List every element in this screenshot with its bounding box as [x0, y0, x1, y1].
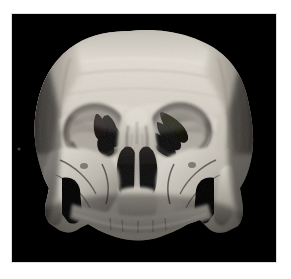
artifact-speck — [17, 147, 20, 150]
volume-render-canvas[interactable] — [12, 14, 276, 262]
page-root: anterior (frontal) face view — [0, 0, 291, 279]
skull-volume-rendering — [12, 14, 276, 262]
